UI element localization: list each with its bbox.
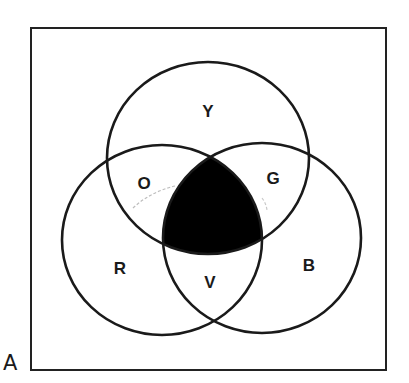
venn-diagram: Y O G R B V A xyxy=(0,0,409,383)
region-label-v: V xyxy=(204,273,216,292)
figure-label: A xyxy=(3,351,18,375)
region-label-g: G xyxy=(266,169,279,188)
faint-arc-artifact-right xyxy=(262,198,267,210)
region-label-y: Y xyxy=(202,102,214,121)
region-label-o: O xyxy=(137,174,150,193)
region-label-r: R xyxy=(114,259,126,278)
region-label-b: B xyxy=(303,256,315,275)
